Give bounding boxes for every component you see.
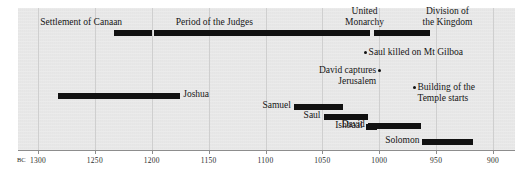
axis-tick-label: 1150 [201, 156, 217, 165]
event-dot [364, 51, 367, 54]
span-label: Samuel [262, 100, 291, 110]
axis-tick [152, 150, 153, 154]
axis-tick-label: 1250 [87, 156, 103, 165]
span-bar [366, 124, 377, 130]
axis-tick [209, 150, 210, 154]
era-label: United Monarchy [345, 6, 384, 27]
span-label: Joshua [183, 89, 209, 99]
span-label: Saul [304, 110, 321, 120]
axis-tick [95, 150, 96, 154]
axis-tick-label: 1100 [258, 156, 274, 165]
span-bar [58, 93, 180, 99]
era-bar [154, 30, 322, 36]
event-label: Saul killed on Mt Gilboa [369, 47, 463, 58]
era-bar [114, 30, 152, 36]
axis-tick [493, 150, 494, 154]
axis-prefix-label: BC [17, 156, 26, 163]
span-bar [422, 139, 472, 145]
event-dot [413, 86, 416, 89]
event-label: David captures Jerusalem [319, 65, 376, 86]
span-label: Solomon [385, 135, 419, 145]
era-bar [322, 30, 370, 36]
gridline [95, 8, 96, 150]
axis-tick-label: 900 [487, 156, 499, 165]
event-dot [378, 69, 381, 72]
gridline [38, 8, 39, 150]
biblical-timeline-chart: 1300125012001150110010501000950900 BC Se… [0, 0, 529, 181]
era-label: Division of the Kingdom [423, 6, 473, 27]
span-label: Ishbaal [335, 120, 362, 130]
axis-tick-label: 1200 [144, 156, 160, 165]
axis-line [18, 150, 515, 151]
gridline [152, 8, 153, 150]
axis-tick [322, 150, 323, 154]
era-label: Settlement of Canaan [40, 17, 122, 28]
axis-tick [266, 150, 267, 154]
axis-tick-label: 1050 [314, 156, 330, 165]
era-bar [374, 30, 431, 36]
axis-tick [436, 150, 437, 154]
event-label: Building of the Temple starts [418, 82, 476, 103]
era-label: Period of the Judges [176, 17, 253, 28]
gridline [493, 8, 494, 150]
axis-tick [38, 150, 39, 154]
axis-tick-label: 1300 [30, 156, 46, 165]
axis-tick-label: 1000 [371, 156, 387, 165]
axis-tick [379, 150, 380, 154]
axis-tick-label: 950 [430, 156, 442, 165]
gridline [436, 8, 437, 150]
